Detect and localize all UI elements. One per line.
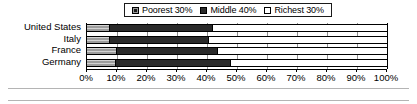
bar-segment-middle[interactable] bbox=[117, 48, 218, 54]
bar-segment-poorest[interactable] bbox=[87, 37, 110, 43]
bar-row[interactable] bbox=[87, 47, 387, 55]
plot-area bbox=[86, 23, 388, 69]
bar-row[interactable] bbox=[87, 24, 387, 32]
category-label-united-states: United States bbox=[24, 22, 81, 32]
bar-segment-poorest[interactable] bbox=[87, 25, 110, 31]
legend-swatch-poorest-icon bbox=[132, 7, 139, 14]
legend-item-label: Middle 40% bbox=[210, 6, 256, 15]
footer-rule-bottom bbox=[8, 100, 409, 101]
bar-segment-richest[interactable] bbox=[213, 25, 387, 31]
category-label-italy: Italy bbox=[64, 34, 81, 44]
bar-segment-richest[interactable] bbox=[209, 37, 388, 43]
bar-segment-middle[interactable] bbox=[110, 37, 209, 43]
bar-segment-richest[interactable] bbox=[218, 48, 388, 54]
bar-segment-middle[interactable] bbox=[116, 60, 232, 66]
x-tick-label-0: 0% bbox=[79, 72, 93, 83]
bar-row[interactable] bbox=[87, 36, 387, 44]
legend-item-middle[interactable]: Middle 40% bbox=[200, 6, 256, 15]
legend-item-poorest[interactable]: Poorest 30% bbox=[132, 6, 192, 15]
bar-segment-richest[interactable] bbox=[231, 60, 387, 66]
x-tick-label-40: 40% bbox=[196, 72, 215, 83]
x-tick-label-10: 10% bbox=[106, 72, 125, 83]
bar-row[interactable] bbox=[87, 59, 387, 67]
chart-legend: Poorest 30%Middle 40%Richest 30% bbox=[124, 3, 332, 17]
x-tick-label-60: 60% bbox=[256, 72, 275, 83]
legend-swatch-middle-icon bbox=[200, 7, 207, 14]
x-tick-label-50: 50% bbox=[226, 72, 245, 83]
legend-item-label: Richest 30% bbox=[274, 6, 323, 15]
x-tick-label-80: 80% bbox=[316, 72, 335, 83]
bar-segment-middle[interactable] bbox=[110, 25, 214, 31]
x-tick-label-100: 100% bbox=[374, 72, 398, 83]
x-tick-label-90: 90% bbox=[346, 72, 365, 83]
legend-item-label: Poorest 30% bbox=[142, 6, 192, 15]
x-tick-label-70: 70% bbox=[286, 72, 305, 83]
legend-item-richest[interactable]: Richest 30% bbox=[264, 6, 323, 15]
legend-swatch-richest-icon bbox=[264, 7, 271, 14]
footer-rule-top bbox=[8, 88, 409, 89]
category-axis-labels: United StatesItalyFranceGermany bbox=[0, 22, 84, 68]
bar-segment-poorest[interactable] bbox=[87, 48, 117, 54]
x-tick-label-20: 20% bbox=[136, 72, 155, 83]
bar-segment-poorest[interactable] bbox=[87, 60, 116, 66]
category-label-germany: Germany bbox=[42, 57, 81, 67]
stacked-bar-chart: Poorest 30%Middle 40%Richest 30% United … bbox=[0, 0, 417, 104]
x-tick-label-30: 30% bbox=[166, 72, 185, 83]
category-label-france: France bbox=[51, 45, 81, 55]
